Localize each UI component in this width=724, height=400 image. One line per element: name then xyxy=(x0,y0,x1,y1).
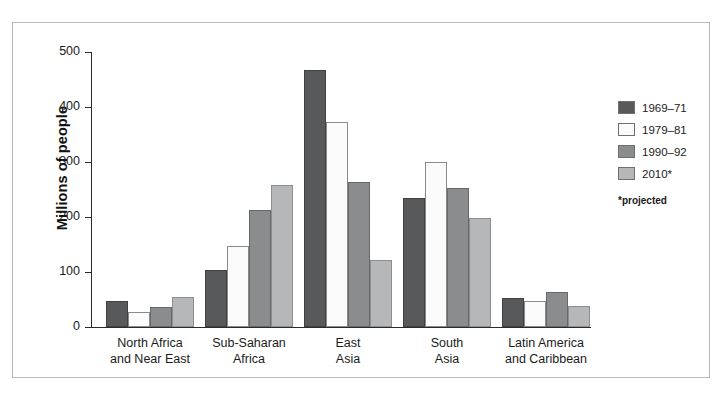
bar-2-2 xyxy=(348,182,370,327)
legend-label-1: 1979–81 xyxy=(642,124,687,136)
legend-label-2: 1990–92 xyxy=(642,146,687,158)
category-label-4-line-0: Latin America xyxy=(476,336,616,352)
category-label-4: Latin Americaand Caribbean xyxy=(476,336,616,367)
legend-item-2: 1990–92 xyxy=(618,142,708,161)
bar-4-1 xyxy=(524,301,546,327)
bar-4-0 xyxy=(502,298,524,327)
bar-2-1 xyxy=(326,122,348,327)
bar-3-1 xyxy=(425,162,447,327)
legend-label-3: 2010* xyxy=(642,168,672,180)
y-tick-label-100: 100 xyxy=(46,265,80,278)
bar-1-2 xyxy=(249,210,271,327)
legend-item-0: 1969–71 xyxy=(618,98,708,117)
x-axis-line xyxy=(91,327,591,328)
legend-swatch-3 xyxy=(618,167,635,180)
bar-0-3 xyxy=(172,297,194,327)
bar-0-0 xyxy=(106,301,128,327)
legend-footnote: *projected xyxy=(618,195,708,206)
chart-legend: 1969–711979–811990–922010* *projected xyxy=(618,98,708,206)
bar-group-2 xyxy=(304,52,392,327)
legend-item-3: 2010* xyxy=(618,164,708,183)
bar-group-1 xyxy=(205,52,293,327)
bar-3-3 xyxy=(469,218,491,327)
legend-items: 1969–711979–811990–922010* xyxy=(618,98,708,183)
bar-group-0 xyxy=(106,52,194,327)
figure-bar-chart: Millions of people 5004003002001000 Nort… xyxy=(0,0,724,400)
bar-4-3 xyxy=(568,306,590,327)
bar-3-0 xyxy=(403,198,425,327)
bar-4-2 xyxy=(546,292,568,327)
y-tick-label-0: 0 xyxy=(46,320,80,333)
category-label-4-line-1: and Caribbean xyxy=(476,352,616,368)
y-axis-ticks: 5004003002001000 xyxy=(0,0,92,400)
legend-swatch-1 xyxy=(618,123,635,136)
bar-2-0 xyxy=(304,70,326,327)
bar-0-1 xyxy=(128,312,150,327)
legend-swatch-2 xyxy=(618,145,635,158)
y-tick-label-500: 500 xyxy=(46,45,80,58)
legend-label-0: 1969–71 xyxy=(642,102,687,114)
plot-area xyxy=(92,52,589,327)
bar-3-2 xyxy=(447,188,469,327)
legend-swatch-0 xyxy=(618,101,635,114)
bar-group-4 xyxy=(502,52,590,327)
bar-1-0 xyxy=(205,270,227,327)
bar-0-2 xyxy=(150,307,172,327)
y-tick-label-200: 200 xyxy=(46,210,80,223)
legend-item-1: 1979–81 xyxy=(618,120,708,139)
bar-group-3 xyxy=(403,52,491,327)
bar-1-1 xyxy=(227,246,249,327)
bar-1-3 xyxy=(271,185,293,327)
y-tick-label-300: 300 xyxy=(46,155,80,168)
y-tick-label-400: 400 xyxy=(46,100,80,113)
bar-2-3 xyxy=(370,260,392,327)
